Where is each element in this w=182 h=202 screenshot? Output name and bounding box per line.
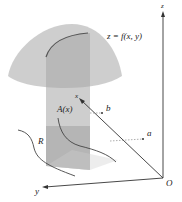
z-axis-arrow-icon [161, 11, 165, 17]
tick-a [142, 138, 144, 140]
z-axis-label: z [160, 2, 164, 10]
y-axis-label: y [34, 186, 39, 196]
tick-b [101, 112, 103, 114]
y-axis [45, 178, 163, 187]
origin-label: O [166, 178, 173, 188]
guide-a [110, 139, 143, 141]
surface-label: z = f(x, y) [106, 31, 142, 41]
region-label: R [37, 136, 44, 146]
lower-bound-label: a [147, 128, 152, 138]
y-axis-arrow-icon [42, 185, 48, 189]
upper-bound-label: b [106, 103, 111, 113]
volume-diagram: z y x z = f(x, y) A(x) b a R O [0, 0, 182, 202]
area-label: A(x) [56, 104, 73, 114]
